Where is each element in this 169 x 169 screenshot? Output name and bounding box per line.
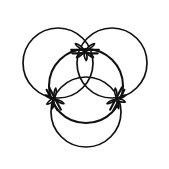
trefoil-circles-figure [0, 0, 169, 169]
figure-canvas: Three interlocking circles with knot ros… [0, 0, 169, 169]
top-knot-petal-tail [84, 52, 87, 61]
